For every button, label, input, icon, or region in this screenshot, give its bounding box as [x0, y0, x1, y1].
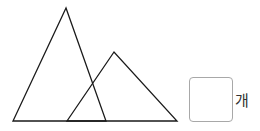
answer-input-box[interactable] — [189, 77, 233, 122]
large-triangle — [13, 8, 106, 121]
small-triangle — [67, 52, 177, 121]
unit-label: 개 — [235, 92, 249, 110]
